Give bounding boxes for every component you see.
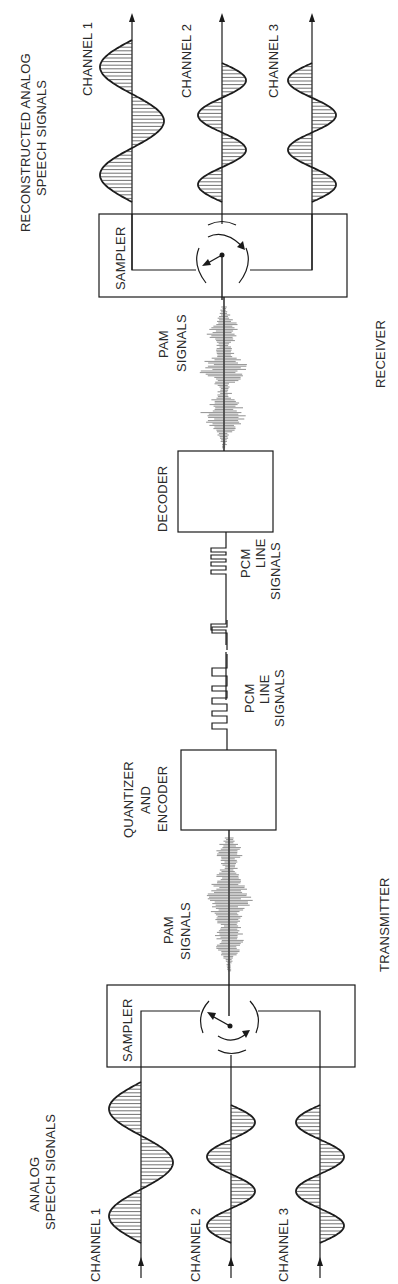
transmitter-label: TRANSMITTER [377,877,392,972]
rx-channel-axes [129,13,315,270]
arrow-up-icon [129,13,135,22]
tx-sampler-label: SAMPLER [120,998,135,1062]
arrow-up-icon [138,1257,144,1266]
quantizer-label-1: QUANTIZER [121,761,136,838]
tx-waveforms [109,1082,344,1243]
rx-channel-1-label: CHANNEL 1 [80,22,95,96]
tx-channel-3-label: CHANNEL 3 [276,1208,291,1282]
arrow-up-icon [309,13,315,22]
rx-waveforms [100,40,336,202]
quantizer-encoder-block: QUANTIZER AND ENCODER [121,750,276,838]
arrow-up-icon [219,13,225,22]
rx-pcm-waveform [211,532,226,700]
tx-channel-2-label: CHANNEL 2 [188,1208,203,1282]
receiver-title-line2: SPEECH SIGNALS [34,80,49,196]
rx-sampler-block: SAMPLER [99,214,347,300]
tx-sampler-block: SAMPLER [107,985,355,1067]
arrow-up-icon [317,1257,323,1266]
pcm-tdm-diagram: RECONSTRUCTED ANALOG SPEECH SIGNALS CHAN… [0,0,398,1284]
rx-channel-2-label: CHANNEL 2 [179,24,194,98]
rx-pcm-label-1: PCM [238,549,253,579]
rotor-arrow-icon [207,1012,216,1020]
arrow-up-icon [228,1257,234,1266]
tx-pcm-label-3: SIGNALS [272,669,287,727]
tx-pcm-waveform [212,620,227,750]
tx-channel-axes [138,1067,323,1278]
rx-pcm-label-3: SIGNALS [268,542,283,600]
rotation-arrow-icon [242,1030,250,1038]
transmitter-title-line2: SPEECH SIGNALS [43,1114,58,1230]
tx-pam-label-1: PAM [161,916,176,944]
receiver-title: RECONSTRUCTED ANALOG SPEECH SIGNALS [18,53,49,232]
transmitter-title-line1: ANALOG [27,1157,42,1212]
tx-pam-label-2: SIGNALS [178,902,193,960]
rx-pam-label-2: SIGNALS [174,314,189,372]
decoder-label: DECODER [155,466,170,532]
quantizer-label-3: ENCODER [155,766,170,832]
rotor-arrow-icon [202,259,211,266]
tx-pam-signal [207,838,253,971]
receiver-title-line1: RECONSTRUCTED ANALOG [18,53,33,232]
tx-pcm-label-2: LINE [257,674,272,704]
transmitter-title: ANALOG SPEECH SIGNALS [27,1114,58,1230]
rx-channel-3-label: CHANNEL 3 [266,24,281,98]
rx-pcm-label-2: LINE [253,538,268,568]
quantizer-label-2: AND [138,786,153,814]
tx-pcm-label-1: PCM [242,684,257,714]
receiver-label: RECEIVER [373,320,388,388]
rx-pam-label-1: PAM [156,330,171,358]
decoder-block: DECODER [155,451,273,532]
rx-sampler-label: SAMPLER [113,226,128,290]
tx-channel-1-label: CHANNEL 1 [88,1208,103,1282]
